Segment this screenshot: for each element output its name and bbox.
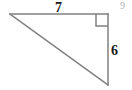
figure-canvas: 7 6 9: [0, 0, 132, 90]
right-angle-marker-icon: [96, 14, 108, 26]
right-leg-length-label: 6: [111, 44, 118, 58]
corner-number-label: 9: [120, 1, 125, 11]
triangle-hypotenuse: [10, 14, 108, 85]
top-leg-length-label: 7: [55, 1, 62, 15]
